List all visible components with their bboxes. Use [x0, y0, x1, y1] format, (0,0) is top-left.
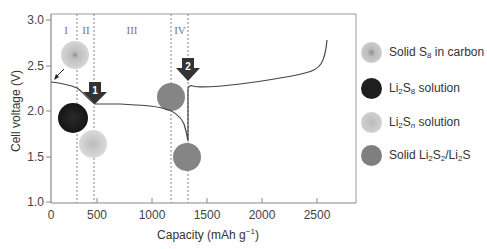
plot-frame — [51, 14, 356, 203]
arrow-2-label: 2 — [185, 61, 191, 72]
y-tick-label: 1.0 — [27, 195, 44, 209]
legend-swatch-icon — [361, 42, 382, 63]
x-tick-label: 500 — [87, 208, 107, 222]
legend-label: Li2Sn solution — [389, 115, 460, 130]
legend-swatch-icon — [361, 112, 382, 133]
solid-s8-marker — [61, 41, 89, 69]
region-label-i: I — [64, 24, 68, 36]
start-pointer-arrow-icon — [54, 69, 64, 80]
li2s8-solution-marker — [58, 103, 88, 133]
y-axis-title: Cell voltage (V) — [9, 70, 23, 152]
legend-swatch-icon — [361, 78, 382, 99]
x-tick-label: 1000 — [139, 208, 166, 222]
legend-item-solid-s8: Solid S8 in carbon — [361, 41, 484, 63]
x-tick-label: 2500 — [304, 208, 331, 222]
y-tick-label: 2.5 — [27, 59, 44, 73]
li2sn-solution-marker — [79, 130, 107, 158]
solid-li2s2-marker — [173, 143, 201, 171]
x-tick-label: 2000 — [249, 208, 276, 222]
legend-swatch-icon — [361, 145, 382, 166]
y-axis-ticks: 3.0 2.5 2.0 1.5 1.0 — [27, 13, 51, 209]
legend-item-li2s8: Li2S8 solution — [361, 77, 460, 99]
region-label-iii: III — [127, 24, 138, 36]
solid-li2s2-marker — [157, 83, 185, 111]
arrow-1-label: 1 — [92, 85, 98, 96]
x-axis-title-main: Capacity (mAh g — [157, 228, 246, 242]
arrow-2-icon: 2 — [176, 58, 200, 81]
region-label-ii: II — [82, 24, 90, 36]
legend-item-solid-li2s2: Solid Li2S2/Li2S — [361, 144, 470, 166]
y-tick-label: 1.5 — [27, 150, 44, 164]
y-tick-label: 3.0 — [27, 13, 44, 27]
x-axis-title: Capacity (mAh g−1) — [157, 227, 259, 242]
legend-label: Li2S8 solution — [389, 81, 460, 96]
region-label-iv: IV — [174, 24, 186, 36]
legend-label: Solid Li2S2/Li2S — [389, 148, 470, 163]
x-tick-label: 0 — [48, 208, 55, 222]
legend-label: Solid S8 in carbon — [389, 45, 484, 60]
x-axis-ticks: 0 500 1000 1500 2000 2500 — [48, 198, 331, 222]
y-tick-label: 2.0 — [27, 104, 44, 118]
arrow-1-icon: 1 — [83, 82, 107, 104]
x-axis-title-close: ) — [255, 228, 259, 242]
legend-item-li2sn: Li2Sn solution — [361, 111, 460, 133]
x-tick-label: 1500 — [194, 208, 221, 222]
